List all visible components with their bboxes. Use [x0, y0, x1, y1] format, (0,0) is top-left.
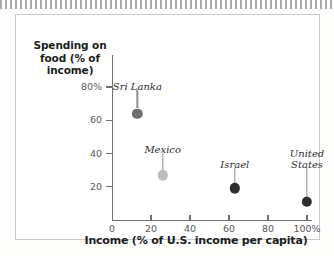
point-leader-line: [137, 90, 138, 108]
data-point-label-sri-lanka: Sri Lanka: [113, 81, 162, 93]
point-leader-line: [306, 168, 307, 196]
y-axis-title-line: Spending on: [32, 39, 108, 52]
data-point-sri-lanka[interactable]: [132, 108, 142, 118]
figure-frame: Spending onfood (% ofincome) Income (% o…: [15, 14, 320, 240]
x-axis-title: Income (% of U.S. income per capita): [76, 234, 316, 247]
data-point-label-line: States: [290, 159, 324, 171]
y-tick-mark: [106, 186, 112, 187]
y-tick-label: 80%: [62, 81, 102, 92]
y-tick-mark: [106, 120, 112, 121]
data-point-label-line: United: [290, 148, 324, 160]
x-tick-label: 40: [170, 223, 210, 234]
point-leader-line: [162, 153, 163, 170]
y-tick-mark: [106, 86, 112, 87]
y-tick-mark: [106, 153, 112, 154]
data-point-label-line: Mexico: [144, 144, 181, 156]
data-point-label-line: Israel: [220, 159, 249, 171]
x-tick-label: 80: [248, 223, 288, 234]
y-tick-label: 60: [62, 114, 102, 125]
y-axis-title-line: food (% of: [32, 52, 108, 65]
data-point-label-israel: Israel: [220, 159, 249, 171]
x-tick-mark: [189, 215, 190, 221]
data-point-label-line: Sri Lanka: [113, 81, 162, 93]
x-tick-mark: [267, 215, 268, 221]
y-axis-title: Spending onfood (% ofincome): [32, 39, 108, 77]
data-point-label-mexico: Mexico: [144, 144, 181, 156]
x-tick-label: 60: [209, 223, 249, 234]
x-tick-mark: [228, 215, 229, 221]
y-tick-label: 40: [62, 148, 102, 159]
scatter-plot: Spending onfood (% ofincome) Income (% o…: [16, 15, 319, 239]
data-point-mexico[interactable]: [157, 170, 167, 180]
x-tick-label: 100%: [287, 223, 327, 234]
y-axis-line: [112, 55, 113, 221]
x-axis-line: [112, 220, 312, 221]
y-tick-label: 20: [62, 181, 102, 192]
data-point-united-states[interactable]: [302, 197, 312, 207]
scanned-page-perforation-edge: [0, 0, 334, 9]
x-tick-label: 20: [131, 223, 171, 234]
y-axis-title-line: income): [32, 64, 108, 77]
data-point-israel[interactable]: [230, 183, 240, 193]
data-point-label-united-states: UnitedStates: [290, 148, 324, 171]
x-tick-mark: [150, 215, 151, 221]
x-tick-label: 0: [92, 223, 132, 234]
x-tick-mark: [306, 215, 307, 221]
